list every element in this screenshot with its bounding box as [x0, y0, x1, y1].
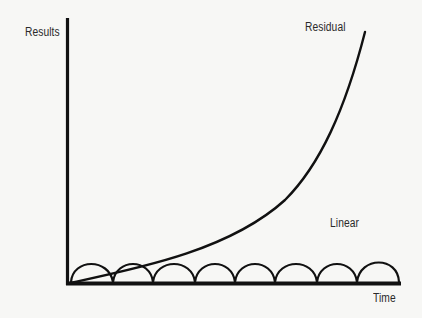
y-axis-label: Results	[25, 25, 60, 39]
linear-label: Linear	[330, 216, 359, 230]
results-over-time-diagram	[0, 0, 422, 318]
arch-8	[357, 263, 399, 283]
arch-3	[153, 264, 195, 282]
residual-label: Residual	[305, 20, 346, 34]
arch-7	[317, 264, 357, 282]
arch-6	[275, 264, 317, 282]
residual-curve	[70, 32, 365, 283]
arch-4	[195, 264, 235, 282]
arch-5	[235, 264, 275, 282]
x-axis-label: Time	[373, 291, 396, 305]
